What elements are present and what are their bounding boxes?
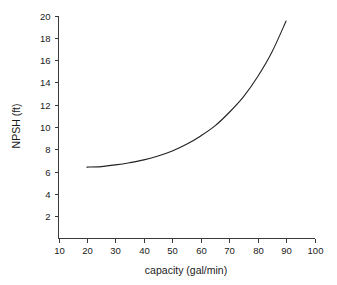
chart-plot-area: 2468101214161820 102030405060708090100 c…	[0, 0, 337, 285]
y-axis-ticks	[55, 17, 59, 217]
x-axis-tick-labels: 102030405060708090100	[54, 245, 323, 256]
x-tick-label: 50	[167, 245, 178, 256]
x-tick-label: 80	[253, 245, 264, 256]
x-tick-label: 70	[224, 245, 235, 256]
x-tick-label: 30	[110, 245, 121, 256]
y-tick-label: 6	[45, 167, 50, 178]
y-tick-label: 12	[40, 100, 51, 111]
y-tick-label: 14	[40, 77, 51, 88]
y-tick-label: 4	[45, 189, 50, 200]
y-axis-title: NPSH (ft)	[10, 104, 22, 149]
x-tick-label: 10	[54, 245, 65, 256]
npsh-curve	[87, 21, 286, 167]
x-tick-label: 20	[82, 245, 93, 256]
y-tick-label: 20	[40, 11, 51, 22]
chart-figure: 2468101214161820 102030405060708090100 c…	[0, 0, 337, 285]
x-tick-label: 100	[308, 245, 324, 256]
y-tick-label: 8	[45, 144, 50, 155]
y-tick-label: 16	[40, 55, 51, 66]
x-tick-label: 90	[281, 245, 292, 256]
y-tick-label: 18	[40, 33, 51, 44]
x-axis-ticks	[60, 239, 316, 243]
x-tick-label: 40	[139, 245, 150, 256]
y-axis-tick-labels: 2468101214161820	[40, 11, 51, 222]
y-tick-label: 2	[45, 211, 50, 222]
y-tick-label: 10	[40, 122, 51, 133]
x-axis-title: capacity (gal/min)	[145, 264, 227, 276]
x-tick-label: 60	[196, 245, 207, 256]
